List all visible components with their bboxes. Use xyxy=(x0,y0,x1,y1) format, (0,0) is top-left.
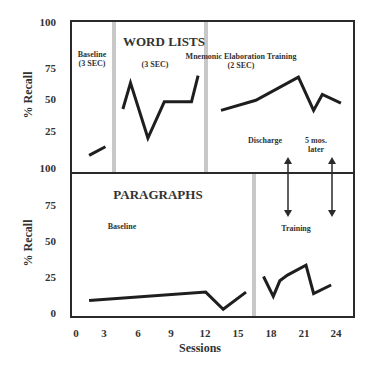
phase3-sub-label: (2 SEC) xyxy=(228,61,255,70)
bottom-baseline-label: Baseline xyxy=(108,222,137,231)
series-line xyxy=(264,265,332,296)
discharge-label: Discharge xyxy=(248,136,283,145)
training-label: Training xyxy=(281,224,311,233)
x-tick: 15 xyxy=(233,327,245,339)
bottom-y-ticks: 100 75 50 25 0 xyxy=(40,162,57,319)
x-tick: 24 xyxy=(331,327,343,339)
baseline-label: Baseline xyxy=(78,50,107,59)
phase2-label: (3 SEC) xyxy=(142,60,169,69)
phase3-label: Mnemonic Elaboration Training xyxy=(186,52,297,61)
series-line xyxy=(123,76,198,138)
y-tick: 75 xyxy=(45,62,57,74)
y-tick: 25 xyxy=(45,125,57,137)
later-label: 5 mos. xyxy=(305,136,327,145)
baseline-sub-label: (3 SEC) xyxy=(79,59,106,68)
y-tick: 50 xyxy=(45,93,57,105)
top-y-axis-label: % Recall xyxy=(21,71,35,119)
y-tick: 25 xyxy=(45,271,57,283)
discharge-arrow-icon xyxy=(284,157,292,217)
series-line xyxy=(89,147,105,156)
series-line xyxy=(221,77,341,110)
later-arrow-icon xyxy=(328,157,336,217)
top-divider-1 xyxy=(112,22,116,173)
top-y-ticks: 100 75 50 25 xyxy=(40,16,57,137)
x-tick: 9 xyxy=(168,327,174,339)
y-tick: 100 xyxy=(40,162,57,174)
x-axis-label: Sessions xyxy=(179,341,221,355)
x-tick: 18 xyxy=(266,327,278,339)
x-tick: 0 xyxy=(73,327,79,339)
top-panel-title: WORD LISTS xyxy=(123,34,205,49)
x-tick: 6 xyxy=(135,327,141,339)
y-tick: 50 xyxy=(45,235,57,247)
chart-figure: 100 75 50 25 100 75 50 25 0 % Recall % R… xyxy=(0,0,377,374)
x-tick: 12 xyxy=(200,327,212,339)
y-tick: 0 xyxy=(51,307,57,319)
bottom-y-axis-label: % Recall xyxy=(21,219,35,267)
y-tick: 100 xyxy=(40,16,57,28)
y-tick: 75 xyxy=(45,199,57,211)
later-sub-label: later xyxy=(308,145,324,154)
bottom-divider xyxy=(252,173,256,317)
x-tick: 21 xyxy=(299,327,310,339)
series-line xyxy=(89,292,246,309)
x-ticks: 0 3 6 9 12 15 18 21 24 xyxy=(73,327,342,339)
x-tick: 3 xyxy=(101,327,107,339)
bottom-panel-title: PARAGRAPHS xyxy=(113,187,202,202)
